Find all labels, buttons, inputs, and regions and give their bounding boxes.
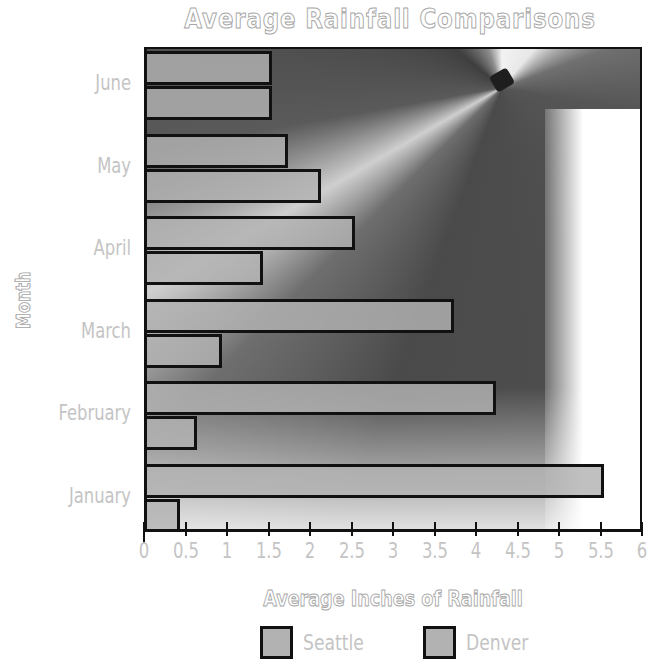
x-tick-mark	[434, 522, 436, 536]
x-tick-label: 2	[295, 538, 325, 563]
y-tick-label: January	[37, 484, 131, 508]
y-tick-label: May	[37, 154, 131, 178]
y-tick-label: April	[37, 236, 131, 260]
x-tick-mark	[475, 522, 477, 536]
x-tick-mark	[185, 522, 187, 536]
x-tick-label: 0	[129, 538, 159, 563]
x-tick-label: 4.5	[503, 538, 533, 563]
legend-label-seattle: Seattle	[303, 630, 358, 655]
legend-swatch-denver	[423, 626, 456, 659]
y-tick-label: February	[37, 401, 131, 425]
x-tick-label: 1.5	[254, 538, 284, 563]
x-tick-mark	[641, 522, 643, 536]
legend-label-denver: Denver	[466, 630, 521, 655]
bar-denver-march	[147, 334, 222, 368]
x-tick-mark	[309, 522, 311, 536]
bar-denver-april	[147, 251, 263, 285]
y-tick-label: June	[37, 71, 131, 95]
bar-seattle-february	[147, 381, 496, 415]
x-tick-mark	[226, 522, 228, 536]
y-axis-title: Month	[11, 273, 35, 329]
chart-title: Average Rainfall Comparisons	[170, 4, 610, 34]
x-axis-title: Average Inches of Rainfall	[194, 586, 592, 611]
bar-seattle-january	[147, 464, 604, 498]
bar-denver-may	[147, 169, 321, 203]
bar-denver-june	[147, 86, 272, 120]
x-tick-mark	[517, 522, 519, 536]
umbrella-background-image	[147, 49, 640, 532]
x-tick-mark	[558, 522, 560, 536]
x-tick-label: 6	[627, 538, 657, 563]
umbrella-hub	[489, 67, 515, 93]
y-tick-label: March	[37, 319, 131, 343]
plot-area	[144, 47, 642, 532]
x-tick-label: 0.5	[171, 538, 201, 563]
x-tick-label: 3	[378, 538, 408, 563]
bar-seattle-march	[147, 299, 454, 333]
x-tick-label: 1	[212, 538, 242, 563]
bar-seattle-may	[147, 134, 288, 168]
bar-denver-january	[147, 499, 180, 532]
x-tick-label: 4	[461, 538, 491, 563]
legend: Seattle Denver	[260, 626, 586, 659]
x-tick-mark	[600, 522, 602, 536]
x-tick-label: 2.5	[337, 538, 367, 563]
legend-swatch-seattle	[260, 626, 293, 659]
x-tick-label: 3.5	[420, 538, 450, 563]
bar-seattle-june	[147, 51, 272, 85]
x-tick-mark	[392, 522, 394, 536]
bar-denver-february	[147, 416, 197, 450]
x-tick-label: 5.5	[586, 538, 616, 563]
x-tick-mark	[268, 522, 270, 536]
bar-seattle-april	[147, 216, 355, 250]
x-tick-mark	[351, 522, 353, 536]
x-tick-label: 5	[544, 538, 574, 563]
